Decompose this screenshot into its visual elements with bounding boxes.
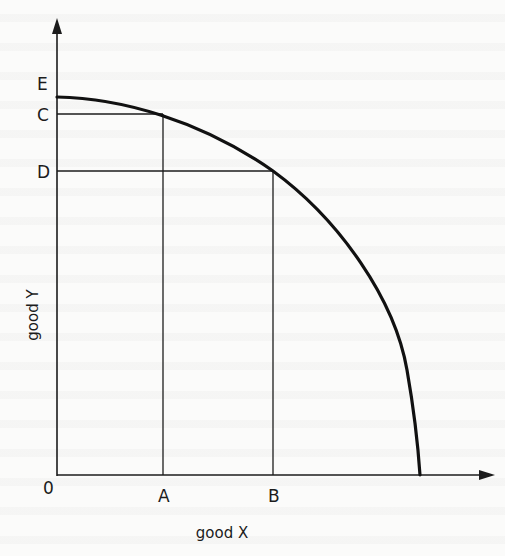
- label-a: A: [158, 486, 170, 506]
- origin-label: 0: [43, 478, 54, 498]
- y-axis-arrow-icon: [52, 18, 62, 34]
- ppf-curve: [57, 97, 420, 475]
- label-c: C: [37, 105, 49, 125]
- x-axis-title: good X: [196, 524, 248, 542]
- ppf-diagram: E C D 0 A B good X good Y: [0, 0, 505, 556]
- x-axis-arrow-icon: [479, 470, 495, 480]
- label-b: B: [268, 486, 280, 506]
- label-e: E: [37, 74, 48, 94]
- y-axis-title: good Y: [24, 288, 42, 340]
- label-d: D: [37, 162, 50, 182]
